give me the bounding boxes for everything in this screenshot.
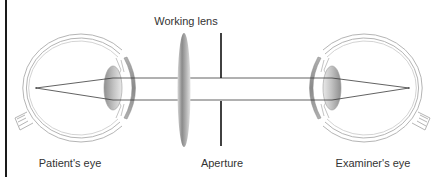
working-lens-label: Working lens <box>154 15 217 28</box>
aperture-label: Aperture <box>201 157 243 170</box>
light-rays <box>36 78 409 100</box>
working-lens <box>178 33 191 147</box>
patients-eye-lens <box>104 66 122 110</box>
patients-eye <box>15 34 136 142</box>
examiners-eye-cornea <box>310 57 322 119</box>
examiners-eye <box>310 34 431 142</box>
examiners-eye-label: Examiner's eye <box>336 157 411 170</box>
diagram-canvas: Working lens Patient's eye Aperture Exam… <box>0 0 445 177</box>
patients-eye-cornea <box>124 57 136 119</box>
optics-diagram <box>0 0 445 177</box>
examiners-eye-lens <box>323 66 341 110</box>
patients-eye-label: Patient's eye <box>39 157 102 170</box>
